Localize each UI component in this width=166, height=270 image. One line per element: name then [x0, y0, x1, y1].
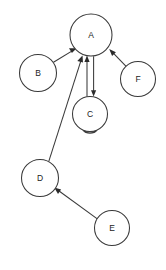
edge-e-to-d[interactable]	[54, 187, 97, 219]
node-f[interactable]: F	[121, 62, 156, 97]
node-c[interactable]: C	[73, 97, 108, 132]
edge-layer	[49, 48, 127, 219]
graph-canvas: A B C D E F	[0, 0, 166, 270]
edge-d-to-a-arrowhead	[77, 56, 83, 63]
node-e-label: E	[109, 223, 115, 233]
node-a-label: A	[88, 30, 94, 40]
edge-b-to-a-line	[54, 50, 74, 62]
node-b[interactable]: B	[20, 55, 57, 92]
node-b-label: B	[35, 68, 41, 78]
edge-c-to-a-arrowhead	[84, 56, 89, 62]
graph-diagram: A B C D E F	[0, 0, 166, 270]
edge-a-to-c-arrowhead	[91, 90, 96, 96]
node-layer: A B C D E F	[20, 14, 156, 246]
edge-f-to-a[interactable]	[109, 49, 126, 67]
node-a[interactable]: A	[70, 14, 112, 56]
node-c-label: C	[87, 109, 93, 119]
node-d[interactable]: D	[22, 160, 59, 197]
edge-b-to-a[interactable]	[54, 48, 77, 62]
edge-c-to-a[interactable]	[84, 56, 89, 97]
edge-a-to-c[interactable]	[91, 56, 96, 96]
node-d-label: D	[37, 173, 43, 183]
node-f-label: F	[135, 74, 140, 84]
edge-e-to-d-line	[57, 190, 97, 219]
node-e[interactable]: E	[95, 211, 130, 246]
